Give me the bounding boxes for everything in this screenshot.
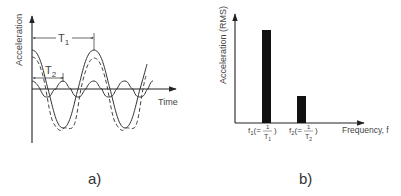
panel-a-caption: a) (88, 170, 101, 187)
panel-a-time-domain: T1 T2 Acceleration Time (13, 14, 178, 143)
svg-text:1: 1 (266, 124, 270, 130)
f1-tick-label: f1(= 1 T1 ) (248, 124, 277, 142)
y-axis-label-b: Acceleration (RMS) (218, 6, 228, 84)
svg-text:): ) (274, 126, 277, 135)
t2-label: T2 (45, 64, 57, 79)
svg-text:): ) (315, 126, 318, 135)
panel-b-caption: b) (299, 170, 312, 187)
svg-text:f1(=: f1(= (248, 126, 261, 136)
bar-f2 (297, 96, 306, 123)
x-axis-label-b: Frequency, f (342, 125, 389, 135)
svg-text:f2(=: f2(= (289, 126, 302, 136)
t1-label: T1 (58, 32, 70, 47)
svg-text:1: 1 (307, 124, 311, 130)
svg-text:T2: T2 (305, 133, 312, 142)
svg-text:T1: T1 (264, 133, 271, 142)
bar-f1 (262, 30, 271, 123)
f2-tick-label: f2(= 1 T2 ) (289, 124, 318, 142)
x-axis-label-a: Time (158, 97, 178, 107)
panel-b-frequency-spectrum: Acceleration (RMS) Frequency, f f1(= 1 T… (218, 6, 389, 142)
vibration-diagram: T1 T2 Acceleration Time Acceleration (RM… (0, 0, 401, 196)
y-axis-label-a: Acceleration (13, 14, 24, 66)
